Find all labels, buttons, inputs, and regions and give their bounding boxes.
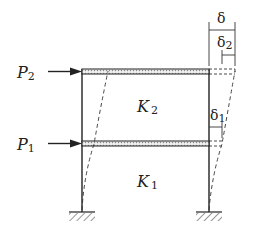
first-floor-beam — [82, 141, 209, 146]
load-arrow-p2 — [48, 68, 82, 76]
delta1-label: δ1 — [210, 107, 225, 125]
displaced-beam-first — [209, 141, 222, 146]
delta2-dimension — [222, 50, 235, 64]
stiffness-label-k2: K2 — [136, 97, 158, 117]
load-arrow-p1 — [48, 140, 82, 148]
delta-total-label: δ — [217, 10, 225, 26]
delta2-label: δ2 — [217, 34, 232, 52]
top-beam — [82, 69, 209, 74]
load-label-p1: P1 — [16, 135, 35, 155]
frame-diagram: P2 P1 K2 K1 δ δ2 δ1 — [0, 0, 254, 239]
right-fixed-support — [196, 212, 222, 221]
load-label-p2: P2 — [16, 63, 35, 83]
stiffness-label-k1: K1 — [136, 172, 158, 192]
left-fixed-support — [69, 212, 95, 221]
right-column-deflected-shape — [209, 71, 235, 210]
displaced-beam-top — [209, 69, 235, 74]
